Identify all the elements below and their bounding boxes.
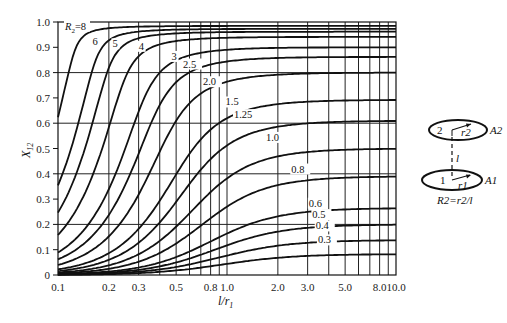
y-tick-label: 0.2 xyxy=(36,218,50,230)
y-tick-label: 0.4 xyxy=(36,168,50,180)
curve-label: 6 xyxy=(92,36,97,47)
x-tick-label: 5.0 xyxy=(338,281,352,293)
disk-geometry-diagram: 2 r2 A2 l 1 r1 A1 R2=r2/l xyxy=(422,120,503,206)
relation-formula: R2=r2/l xyxy=(436,194,473,206)
separation-label: l xyxy=(456,152,459,164)
x-axis-ticks: 0.10.20.30.50.81.02.03.05.08.010.0 xyxy=(51,281,406,293)
svg-text:X12: X12 xyxy=(19,143,35,159)
y-axis-title: X12 xyxy=(19,143,35,159)
view-factor-chart: 00.10.20.30.40.50.60.70.80.91.0 0.10.20.… xyxy=(0,0,507,323)
curve-label: 2.0 xyxy=(203,76,216,87)
y-tick-label: 1.0 xyxy=(36,16,50,28)
y-tick-label: 0.1 xyxy=(36,244,50,256)
y-tick-label: 0.3 xyxy=(36,193,50,205)
disk-1-number: 1 xyxy=(440,174,446,186)
curve-label: 0.3 xyxy=(318,234,331,245)
curve-label: 5 xyxy=(112,38,117,49)
y-tick-label: 0.9 xyxy=(36,41,50,53)
curve-label: 0.5 xyxy=(312,209,325,220)
radius-r1-label: r1 xyxy=(458,179,468,191)
y-tick-label: 0.7 xyxy=(36,92,50,104)
curve-label: R2=8 xyxy=(64,21,86,35)
area-a1-label: A1 xyxy=(484,174,497,186)
x-tick-label: 1.0 xyxy=(220,281,234,293)
curve-label: 0.4 xyxy=(316,220,330,231)
y-tick-label: 0.8 xyxy=(36,67,50,79)
y-axis-ticks: 00.10.20.30.40.50.60.70.80.91.0 xyxy=(36,16,58,281)
x-tick-label: 10.0 xyxy=(386,281,406,293)
curve-label: 1.0 xyxy=(266,132,279,143)
y-tick-label: 0.6 xyxy=(36,117,50,129)
y-tick-label: 0.5 xyxy=(36,143,50,155)
x-tick-label: 2.0 xyxy=(271,281,285,293)
curve-label: 0.6 xyxy=(309,198,322,209)
disk-2-number: 2 xyxy=(437,124,443,136)
x-tick-label: 8.0 xyxy=(373,281,387,293)
x-tick-label: 3.0 xyxy=(301,281,315,293)
x-axis-title: l/r1 xyxy=(218,294,233,310)
x-tick-label: 0.5 xyxy=(169,281,183,293)
curve-label: 1.5 xyxy=(226,96,239,107)
area-a2-label: A2 xyxy=(489,124,503,136)
curve-label: 4 xyxy=(139,41,145,52)
arrowhead-icon xyxy=(466,175,471,179)
curve-label: 2.5 xyxy=(183,59,196,70)
radius-r2-label: r2 xyxy=(461,126,471,138)
curve-label: 3 xyxy=(172,51,177,62)
x-tick-label: 0.1 xyxy=(51,281,65,293)
y-tick-label: 0 xyxy=(45,269,51,281)
x-tick-label: 0.3 xyxy=(132,281,146,293)
curve-label: 1.25 xyxy=(234,109,252,120)
x-tick-label: 0.2 xyxy=(102,281,116,293)
curve-label: 0.8 xyxy=(291,164,304,175)
x-tick-label: 0.8 xyxy=(204,281,218,293)
